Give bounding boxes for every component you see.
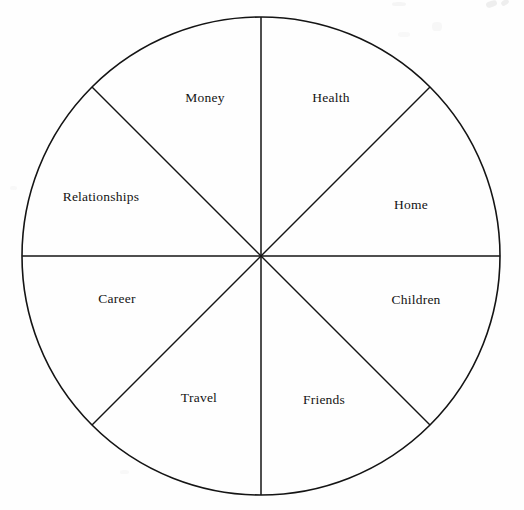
wheel-diagram: Health Home Children Friends Travel Care… — [0, 0, 524, 510]
sector-label-home: Home — [394, 197, 428, 213]
sector-label-friends: Friends — [303, 392, 345, 408]
sector-label-relationships: Relationships — [63, 189, 140, 205]
sector-label-health: Health — [312, 90, 350, 106]
wheel-svg-canvas — [0, 0, 524, 510]
sector-label-career: Career — [98, 291, 135, 307]
sector-label-children: Children — [391, 292, 440, 308]
sector-label-money: Money — [185, 90, 225, 106]
sector-label-travel: Travel — [181, 390, 217, 406]
